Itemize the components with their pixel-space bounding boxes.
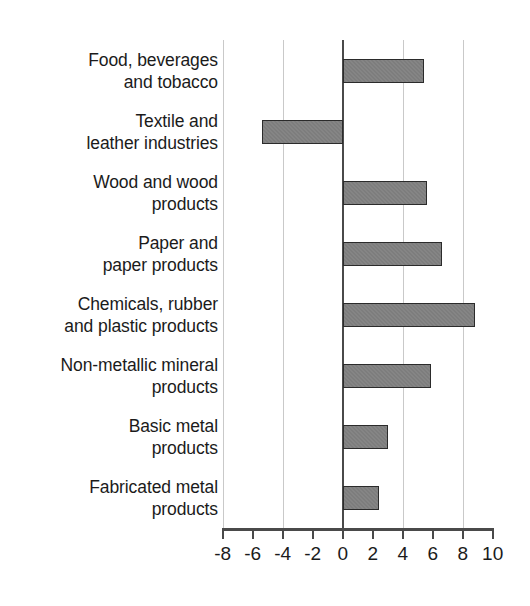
x-axis-tick <box>462 528 464 539</box>
x-axis-tick <box>252 528 254 539</box>
x-axis-tick <box>312 528 314 539</box>
x-axis-tick <box>342 528 344 539</box>
category-label: Paper and paper products <box>0 232 218 276</box>
category-label: Basic metal products <box>0 415 218 459</box>
bar <box>262 120 343 144</box>
category-label: Food, beverages and tobacco <box>0 49 218 93</box>
x-axis-tick-label: 10 <box>473 542 513 566</box>
bar <box>343 59 424 83</box>
category-label: Textile and leather industries <box>0 110 218 154</box>
gridline <box>283 40 284 528</box>
x-axis-tick <box>432 528 434 539</box>
x-axis-tick <box>222 528 224 539</box>
bar <box>343 303 475 327</box>
bar <box>343 242 442 266</box>
gridline <box>463 40 464 528</box>
x-axis-tick <box>372 528 374 539</box>
bar <box>343 364 432 388</box>
x-axis-tick <box>402 528 404 539</box>
bar <box>343 486 379 510</box>
x-axis-line <box>223 528 493 531</box>
category-axis-labels: Food, beverages and tobaccoTextile and l… <box>0 40 218 528</box>
bar <box>343 181 427 205</box>
zero-axis-line <box>342 40 344 528</box>
gridline <box>223 40 224 528</box>
x-axis-tick <box>282 528 284 539</box>
horizontal-bar-chart: Food, beverages and tobaccoTextile and l… <box>0 0 530 606</box>
plot-area <box>223 40 493 528</box>
category-label: Chemicals, rubber and plastic products <box>0 293 218 337</box>
category-label: Non-metallic mineral products <box>0 354 218 398</box>
category-label: Wood and wood products <box>0 171 218 215</box>
gridline <box>403 40 404 528</box>
category-label: Fabricated metal products <box>0 476 218 520</box>
x-axis-tick <box>492 528 494 539</box>
bar <box>343 425 388 449</box>
